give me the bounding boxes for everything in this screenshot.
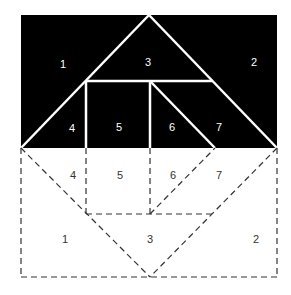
label-bottom-1: 1 (62, 233, 68, 245)
label-top-7: 7 (216, 121, 222, 133)
label-bottom-7: 7 (216, 169, 222, 181)
label-bottom-5: 5 (117, 169, 123, 181)
label-top-3: 3 (145, 56, 151, 68)
label-top-6: 6 (169, 121, 175, 133)
tangram-diagram: 1 3 2 4 5 6 7 4 5 6 7 1 3 2 (0, 0, 291, 295)
label-bottom-2: 2 (253, 233, 259, 245)
dashed-outline (21, 148, 277, 277)
label-top-1: 1 (60, 58, 66, 70)
label-bottom-6: 6 (170, 169, 176, 181)
label-top-4: 4 (69, 122, 75, 134)
label-top-5: 5 (116, 121, 122, 133)
label-top-2: 2 (251, 56, 257, 68)
label-bottom-4: 4 (70, 169, 76, 181)
label-bottom-3: 3 (147, 233, 153, 245)
